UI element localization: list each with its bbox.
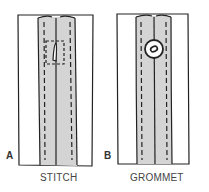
panel-b-letter: B [104, 150, 111, 161]
zipper-illustrations [0, 0, 209, 192]
panel-a-caption: STITCH [40, 172, 77, 183]
panel-b-grommet-drawing [117, 14, 189, 164]
panel-b-caption: GROMMET [130, 172, 184, 183]
panel-a-letter: A [6, 150, 13, 161]
panel-a-stitch-drawing [18, 15, 93, 166]
